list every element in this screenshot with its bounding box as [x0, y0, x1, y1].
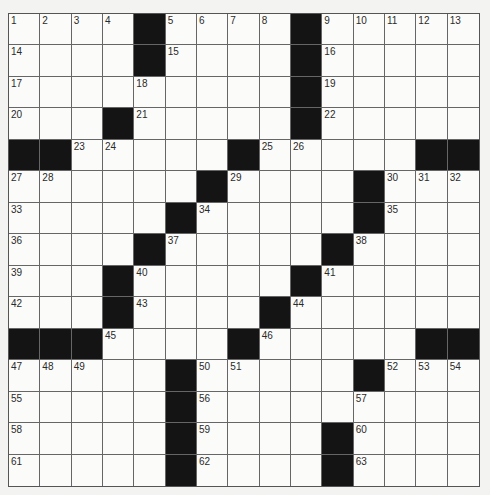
grid-cell[interactable]	[385, 266, 416, 297]
grid-cell[interactable]	[166, 140, 197, 171]
grid-cell[interactable]: 27	[9, 171, 40, 202]
grid-cell[interactable]	[197, 140, 228, 171]
grid-cell[interactable]: 10	[354, 14, 385, 45]
grid-cell[interactable]	[354, 140, 385, 171]
grid-cell[interactable]: 37	[166, 234, 197, 265]
grid-cell[interactable]	[197, 234, 228, 265]
grid-cell[interactable]: 13	[448, 14, 479, 45]
grid-cell[interactable]	[72, 203, 103, 234]
grid-cell[interactable]	[448, 423, 479, 454]
grid-cell[interactable]	[72, 234, 103, 265]
grid-cell[interactable]: 26	[291, 140, 322, 171]
grid-cell[interactable]: 11	[385, 14, 416, 45]
grid-cell[interactable]	[197, 329, 228, 360]
grid-cell[interactable]	[134, 203, 165, 234]
grid-cell[interactable]	[228, 423, 259, 454]
grid-cell[interactable]	[72, 297, 103, 328]
grid-cell[interactable]: 50	[197, 360, 228, 391]
grid-cell[interactable]	[103, 234, 134, 265]
grid-cell[interactable]	[72, 392, 103, 423]
grid-cell[interactable]: 19	[322, 77, 353, 108]
grid-cell[interactable]: 42	[9, 297, 40, 328]
grid-cell[interactable]	[103, 423, 134, 454]
grid-cell[interactable]	[166, 266, 197, 297]
grid-cell[interactable]	[40, 392, 71, 423]
grid-cell[interactable]	[448, 266, 479, 297]
grid-cell[interactable]	[228, 234, 259, 265]
grid-cell[interactable]	[166, 297, 197, 328]
grid-cell[interactable]	[134, 455, 165, 486]
grid-cell[interactable]: 48	[40, 360, 71, 391]
grid-cell[interactable]	[260, 423, 291, 454]
grid-cell[interactable]	[103, 203, 134, 234]
grid-cell[interactable]	[354, 45, 385, 76]
grid-cell[interactable]	[103, 360, 134, 391]
grid-cell[interactable]: 51	[228, 360, 259, 391]
grid-cell[interactable]	[322, 360, 353, 391]
grid-cell[interactable]	[322, 392, 353, 423]
grid-cell[interactable]	[134, 360, 165, 391]
grid-cell[interactable]: 24	[103, 140, 134, 171]
grid-cell[interactable]: 21	[134, 108, 165, 139]
grid-cell[interactable]	[228, 266, 259, 297]
grid-cell[interactable]	[197, 45, 228, 76]
grid-cell[interactable]: 12	[416, 14, 447, 45]
grid-cell[interactable]	[385, 108, 416, 139]
grid-cell[interactable]: 4	[103, 14, 134, 45]
grid-cell[interactable]	[260, 266, 291, 297]
grid-cell[interactable]	[322, 297, 353, 328]
grid-cell[interactable]: 56	[197, 392, 228, 423]
grid-cell[interactable]	[260, 45, 291, 76]
grid-cell[interactable]	[166, 108, 197, 139]
grid-cell[interactable]: 39	[9, 266, 40, 297]
grid-cell[interactable]	[291, 329, 322, 360]
grid-cell[interactable]	[385, 423, 416, 454]
grid-cell[interactable]: 41	[322, 266, 353, 297]
grid-cell[interactable]	[354, 266, 385, 297]
grid-cell[interactable]	[40, 455, 71, 486]
grid-cell[interactable]: 6	[197, 14, 228, 45]
grid-cell[interactable]	[448, 203, 479, 234]
grid-cell[interactable]	[197, 297, 228, 328]
grid-cell[interactable]	[228, 77, 259, 108]
grid-cell[interactable]	[416, 203, 447, 234]
grid-cell[interactable]	[72, 423, 103, 454]
grid-cell[interactable]	[260, 171, 291, 202]
grid-cell[interactable]	[72, 108, 103, 139]
grid-cell[interactable]	[416, 108, 447, 139]
grid-cell[interactable]	[322, 203, 353, 234]
grid-cell[interactable]: 8	[260, 14, 291, 45]
grid-cell[interactable]: 61	[9, 455, 40, 486]
grid-cell[interactable]: 2	[40, 14, 71, 45]
grid-cell[interactable]	[260, 203, 291, 234]
grid-cell[interactable]	[166, 329, 197, 360]
grid-cell[interactable]: 18	[134, 77, 165, 108]
grid-cell[interactable]: 44	[291, 297, 322, 328]
grid-cell[interactable]: 40	[134, 266, 165, 297]
grid-cell[interactable]	[385, 297, 416, 328]
grid-cell[interactable]	[228, 297, 259, 328]
grid-cell[interactable]: 55	[9, 392, 40, 423]
grid-cell[interactable]: 34	[197, 203, 228, 234]
grid-cell[interactable]	[260, 77, 291, 108]
grid-cell[interactable]: 35	[385, 203, 416, 234]
grid-cell[interactable]: 28	[40, 171, 71, 202]
grid-cell[interactable]: 47	[9, 360, 40, 391]
grid-cell[interactable]	[385, 45, 416, 76]
grid-cell[interactable]	[40, 77, 71, 108]
grid-cell[interactable]	[103, 77, 134, 108]
grid-cell[interactable]: 23	[72, 140, 103, 171]
grid-cell[interactable]: 20	[9, 108, 40, 139]
grid-cell[interactable]: 16	[322, 45, 353, 76]
grid-cell[interactable]	[385, 329, 416, 360]
grid-cell[interactable]	[291, 360, 322, 391]
grid-cell[interactable]	[260, 360, 291, 391]
grid-cell[interactable]: 60	[354, 423, 385, 454]
grid-cell[interactable]	[260, 234, 291, 265]
grid-cell[interactable]	[448, 297, 479, 328]
grid-cell[interactable]	[166, 77, 197, 108]
grid-cell[interactable]	[291, 171, 322, 202]
grid-cell[interactable]: 7	[228, 14, 259, 45]
grid-cell[interactable]: 36	[9, 234, 40, 265]
grid-cell[interactable]	[416, 266, 447, 297]
